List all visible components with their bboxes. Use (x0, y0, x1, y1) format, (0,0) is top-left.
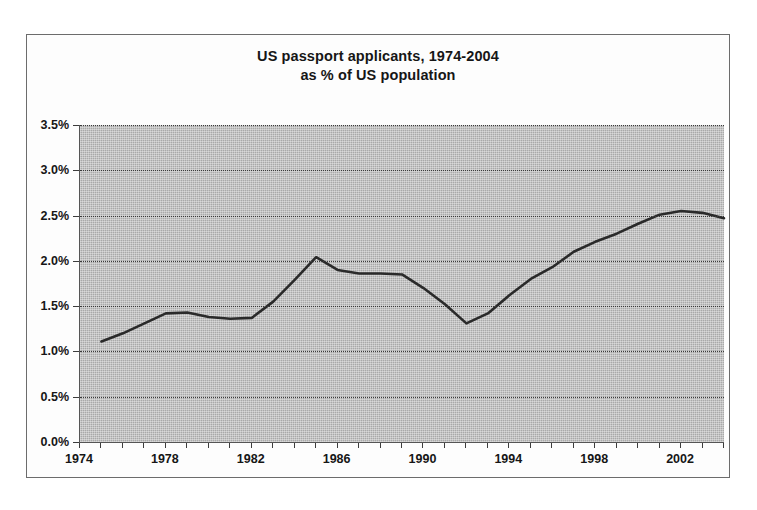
x-axis-tick-mark (122, 443, 123, 448)
x-axis-tick-mark (723, 443, 724, 448)
chart-title-line-2: as % of US population (27, 66, 729, 85)
y-axis-tick-mark (73, 170, 79, 171)
x-axis-tick-mark (616, 443, 617, 448)
gridline-horizontal (80, 125, 724, 126)
x-axis-tick-mark (143, 443, 144, 448)
x-axis-tick-mark (573, 443, 574, 448)
x-axis-tick-mark (337, 443, 338, 448)
x-axis-tick-label: 1994 (494, 452, 522, 466)
x-axis-tick-mark (465, 443, 466, 448)
x-axis-tick-mark (186, 443, 187, 448)
x-axis-tick-label: 1998 (580, 452, 608, 466)
x-axis-tick-mark (444, 443, 445, 448)
x-axis-tick-mark (702, 443, 703, 448)
x-axis-tick-mark (294, 443, 295, 448)
y-axis-tick-label: 0.5% (23, 390, 69, 404)
chart-title: US passport applicants, 1974-2004 as % o… (27, 47, 729, 85)
x-axis-tick-mark (401, 443, 402, 448)
y-axis-tick-label: 1.5% (23, 299, 69, 313)
x-axis-tick-mark (315, 443, 316, 448)
x-axis-tick-mark (680, 443, 681, 448)
x-axis-tick-label: 1974 (65, 452, 93, 466)
x-axis-tick-mark (659, 443, 660, 448)
x-axis-tick-mark (251, 443, 252, 448)
x-axis-tick-mark (358, 443, 359, 448)
data-series-line (80, 125, 724, 442)
x-axis-tick-mark (380, 443, 381, 448)
x-axis-tick-label: 1978 (151, 452, 179, 466)
y-axis-tick-mark (73, 397, 79, 398)
x-axis-tick-mark (272, 443, 273, 448)
x-axis-tick-mark (637, 443, 638, 448)
y-axis-tick-label: 3.5% (23, 118, 69, 132)
gridline-horizontal (80, 170, 724, 171)
x-axis-tick-mark (229, 443, 230, 448)
x-axis-tick-mark (208, 443, 209, 448)
x-axis-tick-mark (100, 443, 101, 448)
y-axis-tick-mark (73, 261, 79, 262)
plot-area (79, 125, 724, 443)
x-axis-tick-mark (530, 443, 531, 448)
chart-figure-frame: US passport applicants, 1974-2004 as % o… (26, 34, 730, 478)
y-axis-tick-label: 0.0% (23, 435, 69, 449)
y-axis-tick-label: 2.5% (23, 209, 69, 223)
x-axis-tick-mark (508, 443, 509, 448)
gridline-horizontal (80, 397, 724, 398)
y-axis-tick-label: 2.0% (23, 254, 69, 268)
x-axis-tick-mark (551, 443, 552, 448)
x-axis-tick-label: 1986 (323, 452, 351, 466)
y-axis-tick-mark (73, 306, 79, 307)
y-axis-tick-label: 1.0% (23, 344, 69, 358)
scanned-text-fragment: passport applicants as % of US populatio… (0, 0, 757, 20)
gridline-horizontal (80, 261, 724, 262)
gridline-horizontal (80, 306, 724, 307)
chart-title-line-1: US passport applicants, 1974-2004 (27, 47, 729, 66)
y-axis-tick-mark (73, 125, 79, 126)
y-axis-tick-label: 3.0% (23, 163, 69, 177)
y-axis-tick-mark (73, 351, 79, 352)
x-axis-tick-label: 2002 (666, 452, 694, 466)
x-axis-tick-mark (79, 443, 80, 448)
x-axis-tick-mark (165, 443, 166, 448)
gridline-horizontal (80, 351, 724, 352)
gridline-horizontal (80, 216, 724, 217)
x-axis-tick-label: 1982 (237, 452, 265, 466)
x-axis-tick-mark (487, 443, 488, 448)
x-axis-tick-label: 1990 (409, 452, 437, 466)
y-axis-tick-mark (73, 216, 79, 217)
x-axis-tick-mark (422, 443, 423, 448)
x-axis-tick-mark (594, 443, 595, 448)
